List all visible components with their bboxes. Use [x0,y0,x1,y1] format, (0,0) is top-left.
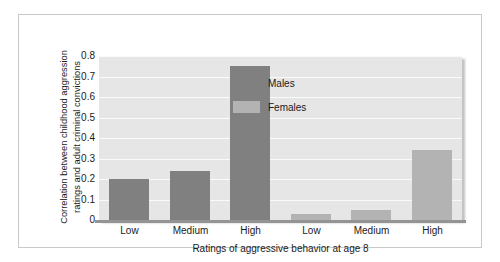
legend-label: Males [268,78,295,89]
x-axis-tick-label: Low [99,224,160,238]
y-axis-tick-label: 0.2 [81,173,95,185]
y-axis-tick-labels: 00.10.20.30.40.50.60.70.8 [71,49,95,227]
bar-males-low [109,179,149,220]
x-axis-tick-label: Medium [160,224,221,238]
y-axis-tick-label: 0.8 [81,50,95,62]
y-axis-tick-label: 0.5 [81,112,95,124]
y-axis-title: Correlation between childhood aggression… [43,37,73,237]
x-axis-tick-label: Medium [341,224,402,238]
x-axis-line [95,220,466,223]
bar-females-high [412,150,452,220]
y-axis-tick-label: 0.3 [81,153,95,165]
y-axis-tick-label: 0.4 [81,132,95,144]
x-axis-tick-label: High [220,224,281,238]
gridline [99,200,462,201]
legend-item-females: Females [233,97,348,117]
x-axis-tick-label: High [402,224,463,238]
bar-males-medium [170,171,210,220]
x-axis-tick-labels: LowMediumHighLowMediumHigh [99,224,462,240]
legend-swatch-females [233,101,260,113]
legend-item-males: Males [233,73,348,93]
y-axis-tick-label: 0.6 [81,91,95,103]
legend-swatch-males [233,77,260,89]
legend-label: Females [268,102,306,113]
chart-figure-frame: Correlation between childhood aggression… [18,14,482,248]
chart-legend: MalesFemales [233,73,348,121]
y-axis-tick-label: 0.7 [81,71,95,83]
gridline [99,159,462,160]
y-axis-tick-label: 0.1 [81,194,95,206]
x-axis-tick-label: Low [281,224,342,238]
gridline [99,56,462,57]
gridline [99,179,462,180]
x-axis-title: Ratings of aggressive behavior at age 8 [99,243,462,254]
bar-females-medium [351,210,391,220]
gridline [99,138,462,139]
